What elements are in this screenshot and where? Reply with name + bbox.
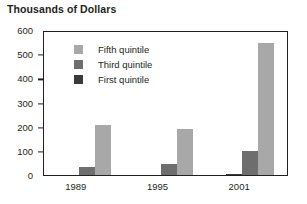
bar bbox=[177, 129, 193, 175]
legend-item: First quintile bbox=[74, 73, 194, 87]
x-tick-label: 2001 bbox=[229, 182, 250, 192]
chart-title: Thousands of Dollars bbox=[7, 3, 116, 15]
legend-item: Third quintile bbox=[74, 58, 194, 72]
legend-swatch bbox=[74, 75, 83, 84]
legend-label: First quintile bbox=[98, 74, 149, 85]
bar-chart-figure: Thousands of Dollars 0100200300400500600… bbox=[0, 0, 307, 204]
bar bbox=[95, 125, 111, 175]
y-tick-label: 300 bbox=[17, 99, 33, 109]
x-tick-label: 1989 bbox=[65, 182, 86, 192]
bar bbox=[258, 43, 274, 175]
legend-label: Fifth quintile bbox=[98, 44, 149, 55]
y-axis: 0100200300400500600 bbox=[0, 31, 43, 176]
bar bbox=[79, 167, 95, 175]
x-tick-label: 1995 bbox=[147, 182, 168, 192]
bar bbox=[226, 174, 242, 175]
y-tick-label: 100 bbox=[17, 147, 33, 157]
bar bbox=[242, 151, 258, 175]
y-tick-label: 0 bbox=[28, 171, 33, 181]
chart-legend: Fifth quintileThird quintileFirst quinti… bbox=[74, 43, 194, 88]
y-tick-label: 400 bbox=[17, 75, 33, 85]
x-axis: 198919952001 bbox=[43, 182, 288, 198]
bar bbox=[161, 164, 177, 175]
legend-swatch bbox=[74, 45, 83, 54]
legend-item: Fifth quintile bbox=[74, 43, 194, 57]
legend-label: Third quintile bbox=[98, 59, 152, 70]
y-tick-label: 600 bbox=[17, 26, 33, 36]
y-tick-label: 200 bbox=[17, 123, 33, 133]
y-tick-label: 500 bbox=[17, 50, 33, 60]
legend-swatch bbox=[74, 60, 83, 69]
